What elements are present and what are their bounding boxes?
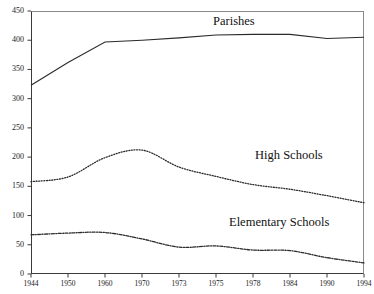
y-axis-tick-label: 300 [2, 95, 24, 103]
y-axis-tick-label: 250 [2, 124, 24, 132]
x-axis-tick-label: 1994 [347, 280, 374, 288]
x-axis-tick-label: 1944 [14, 280, 48, 288]
line-chart: 050100150200250300350400450 194419501960… [0, 0, 374, 294]
series-label-elementary-schools: Elementary Schools [229, 215, 329, 230]
series-label-parishes: Parishes [213, 14, 255, 29]
series-label-high-schools: High Schools [255, 148, 323, 163]
x-axis-tick-label: 1978 [236, 280, 270, 288]
chart-canvas [0, 0, 374, 294]
y-axis-tick-label: 150 [2, 182, 24, 190]
series-line-parishes [31, 34, 364, 85]
y-axis-tick-label: 50 [2, 241, 24, 249]
y-axis-tick-label: 400 [2, 36, 24, 44]
x-axis-tick-label: 1960 [88, 280, 122, 288]
x-axis-tick-marks [31, 274, 364, 278]
y-axis-tick-label: 200 [2, 153, 24, 161]
y-axis-tick-label: 100 [2, 212, 24, 220]
y-axis-tick-label: 450 [2, 7, 24, 15]
x-axis-tick-label: 1970 [125, 280, 159, 288]
x-axis-tick-label: 1984 [273, 280, 307, 288]
series-line-elementary-schools [31, 232, 364, 263]
x-axis-tick-label: 1973 [162, 280, 196, 288]
x-axis-tick-label: 1975 [199, 280, 233, 288]
x-axis-tick-label: 1990 [310, 280, 344, 288]
y-axis-tick-label: 350 [2, 65, 24, 73]
y-axis-tick-label: 0 [2, 270, 24, 278]
x-axis-tick-label: 1950 [51, 280, 85, 288]
